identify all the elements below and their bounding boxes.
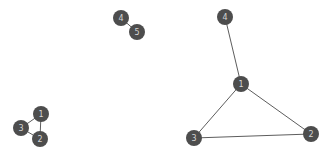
graph-node-circle[interactable] (129, 24, 145, 40)
edge-layer (21, 17, 311, 139)
graph-node-circle[interactable] (186, 130, 202, 146)
graph-node-circle[interactable] (233, 76, 249, 92)
graph-node-circle[interactable] (217, 9, 233, 25)
graph-edge (241, 84, 311, 134)
graph-node-circle[interactable] (303, 126, 319, 142)
graph-node[interactable]: 4 (217, 9, 233, 25)
graph-node[interactable]: 5 (129, 24, 145, 40)
node-layer: 123454132 (13, 9, 319, 147)
graph-edge (194, 84, 241, 138)
graph-node[interactable]: 3 (13, 120, 29, 136)
graph-node[interactable]: 1 (33, 106, 49, 122)
graph-node[interactable]: 4 (113, 10, 129, 26)
graph-diagram: 123454132 (0, 0, 332, 155)
graph-node[interactable]: 2 (32, 131, 48, 147)
graph-node-circle[interactable] (113, 10, 129, 26)
graph-edge (194, 134, 311, 138)
graph-canvas: 123454132 (0, 0, 332, 155)
graph-node-circle[interactable] (33, 106, 49, 122)
graph-edge (225, 17, 241, 84)
graph-node[interactable]: 1 (233, 76, 249, 92)
graph-node[interactable]: 3 (186, 130, 202, 146)
graph-node-circle[interactable] (32, 131, 48, 147)
graph-node[interactable]: 2 (303, 126, 319, 142)
graph-node-circle[interactable] (13, 120, 29, 136)
